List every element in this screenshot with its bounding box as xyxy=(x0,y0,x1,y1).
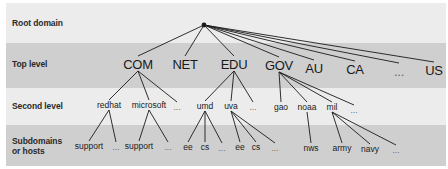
edge-mil-to-navy xyxy=(332,112,370,144)
node-ee: ee xyxy=(235,142,244,152)
ellipsis-node: ... xyxy=(271,143,278,153)
ellipsis-node: ... xyxy=(173,102,180,112)
node-army: army xyxy=(333,143,352,153)
edge-microsoft-to-support xyxy=(139,110,149,141)
node-gao: gao xyxy=(274,102,288,112)
ellipsis-node: ... xyxy=(218,143,225,153)
node-redhat: redhat xyxy=(97,100,121,110)
node-navy: navy xyxy=(361,144,379,154)
edge-gov-to-noaa xyxy=(279,72,307,102)
edge-mil-to-more xyxy=(332,112,396,145)
node-uva: uva xyxy=(224,101,238,111)
node-support: support xyxy=(125,141,153,151)
node-support: support xyxy=(75,141,103,151)
root-node-dot xyxy=(202,23,207,28)
edge-microsoft-to-more xyxy=(149,110,168,142)
node-mil: mil xyxy=(327,102,338,112)
ellipsis-node: ... xyxy=(164,142,171,152)
node-edu: EDU xyxy=(221,57,248,72)
node-gov: GOV xyxy=(265,58,293,73)
node-noaa: noaa xyxy=(298,102,317,112)
edge-edu-to-uva xyxy=(231,71,234,101)
edge-umd-to-ee xyxy=(188,111,205,142)
ellipsis-node: ... xyxy=(394,64,404,79)
node-ca: CA xyxy=(346,62,363,77)
edge-root-to-gov xyxy=(204,25,279,57)
node-nws: nws xyxy=(303,143,318,153)
edge-com-to-redhat xyxy=(109,71,138,100)
edge-noaa-to-nws xyxy=(307,112,311,143)
edge-gov-to-gao xyxy=(279,72,281,102)
node-us: US xyxy=(425,63,442,78)
node-microsoft: microsoft xyxy=(132,100,166,110)
node-com: COM xyxy=(123,57,152,72)
node-cs: cs xyxy=(201,142,210,152)
edge-edu-to-umd xyxy=(205,71,234,101)
edge-gov-to-mil xyxy=(279,72,332,102)
ellipsis-node: ... xyxy=(350,105,357,115)
ellipsis-node: ... xyxy=(112,142,119,152)
node-cs: cs xyxy=(252,142,261,152)
edge-gov-to-more xyxy=(279,72,354,105)
edge-umd-to-more xyxy=(205,111,222,143)
node-ee: ee xyxy=(183,142,192,152)
edge-uva-to-ee xyxy=(231,111,240,142)
ellipsis-node: ... xyxy=(249,102,256,112)
node-net: NET xyxy=(172,57,197,72)
node-au: AU xyxy=(305,61,322,76)
edge-edu-to-more xyxy=(234,71,253,102)
ellipsis-node: ... xyxy=(392,145,399,155)
node-umd: umd xyxy=(197,101,214,111)
edge-redhat-to-support xyxy=(89,110,109,141)
edge-redhat-to-more xyxy=(109,110,116,142)
